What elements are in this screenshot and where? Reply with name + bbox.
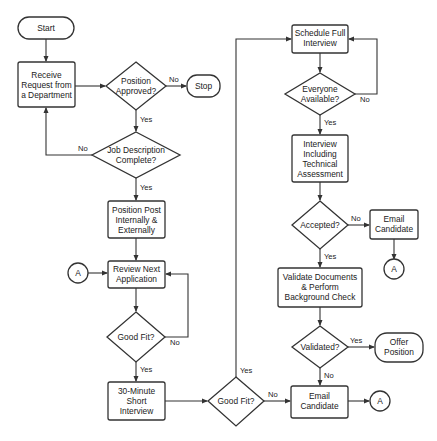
- node-validated: Validated?: [292, 326, 348, 368]
- svg-text:Approved?: Approved?: [116, 86, 157, 96]
- node-connector-a-left: A: [68, 263, 88, 283]
- svg-text:Position: Position: [384, 347, 414, 357]
- svg-text:Interview: Interview: [303, 139, 337, 149]
- svg-text:Schedule Full: Schedule Full: [295, 28, 346, 38]
- svg-text:Email: Email: [309, 391, 330, 401]
- svg-text:Including: Including: [303, 149, 337, 159]
- edge-goodfit1-review: [165, 274, 188, 337]
- node-email-candidate-1: Email Candidate: [370, 210, 418, 239]
- svg-text:Good Fit?: Good Fit?: [118, 332, 155, 342]
- svg-text:Background Check: Background Check: [285, 292, 357, 302]
- node-position-post: Position Post Internally & Externally: [108, 201, 165, 238]
- node-connector-a-right: A: [384, 259, 404, 279]
- label-approved-no: No: [169, 75, 179, 84]
- svg-text:A: A: [75, 268, 81, 278]
- svg-text:Candidate: Candidate: [375, 224, 414, 234]
- node-technical-interview: Interview Including Technical Assessment: [292, 135, 348, 182]
- label-accepted-yes: Yes: [324, 252, 337, 261]
- node-schedule-interview: Schedule Full Interview: [292, 25, 348, 53]
- svg-text:Review Next: Review Next: [113, 264, 161, 274]
- svg-text:Receive: Receive: [31, 70, 62, 80]
- label-validated-no: No: [324, 371, 334, 380]
- svg-text:Interview: Interview: [303, 38, 337, 48]
- node-review-application: Review Next Application: [108, 261, 165, 288]
- node-connector-a-bottom: A: [370, 391, 390, 411]
- node-receive-request: Receive Request from a Department: [18, 62, 75, 107]
- label-jobdesc-no: No: [78, 144, 88, 153]
- node-good-fit-2: Good Fit?: [208, 377, 264, 426]
- edge-goodfit2-schedule: [236, 39, 291, 377]
- svg-text:Offer: Offer: [390, 337, 409, 347]
- node-validate-documents: Validate Documents & Perform Background …: [278, 268, 362, 307]
- node-job-description: Job Description Complete?: [92, 132, 180, 178]
- svg-text:Stop: Stop: [195, 81, 213, 91]
- label-goodfit2-no: No: [268, 390, 278, 399]
- flowchart-canvas: No Yes No Yes No Yes Yes No No Yes No Ye…: [0, 0, 437, 441]
- node-everyone-available: Everyone Available?: [285, 73, 355, 115]
- node-accepted: Accepted?: [292, 201, 348, 249]
- svg-text:Short: Short: [126, 396, 147, 406]
- label-jobdesc-yes: Yes: [140, 183, 153, 192]
- svg-text:Start: Start: [37, 23, 55, 33]
- svg-text:Position Post: Position Post: [112, 205, 162, 215]
- svg-text:Position: Position: [121, 76, 151, 86]
- label-everyone-no: No: [360, 95, 370, 104]
- svg-text:Email: Email: [384, 214, 405, 224]
- svg-text:A: A: [391, 264, 397, 274]
- svg-text:Complete?: Complete?: [116, 155, 157, 165]
- label-validated-yes: Yes: [350, 336, 363, 345]
- label-approved-yes: Yes: [140, 115, 153, 124]
- node-offer-position: Offer Position: [375, 333, 423, 362]
- node-good-fit-1: Good Fit?: [107, 312, 165, 362]
- svg-text:Technical: Technical: [303, 159, 338, 169]
- svg-text:Accepted?: Accepted?: [300, 220, 340, 230]
- svg-text:Externally: Externally: [118, 225, 156, 235]
- svg-text:Candidate: Candidate: [300, 401, 339, 411]
- edge-everyone-schedule: [349, 39, 377, 94]
- svg-text:30-Minute: 30-Minute: [118, 386, 156, 396]
- svg-text:Request from: Request from: [21, 80, 71, 90]
- flowchart-svg: No Yes No Yes No Yes Yes No No Yes No Ye…: [0, 0, 437, 441]
- svg-text:Internally &: Internally &: [116, 215, 158, 225]
- node-position-approved: Position Approved?: [106, 62, 166, 110]
- svg-text:Application: Application: [116, 274, 157, 284]
- node-stop: Stop: [187, 75, 220, 97]
- node-email-candidate-2: Email Candidate: [291, 386, 348, 418]
- svg-text:Validated?: Validated?: [301, 342, 340, 352]
- label-goodfit1-yes: Yes: [140, 365, 153, 374]
- svg-text:a Department: a Department: [21, 90, 72, 100]
- label-goodfit1-no: No: [170, 338, 180, 347]
- svg-text:Interview: Interview: [120, 406, 154, 416]
- label-goodfit2-yes: Yes: [240, 366, 253, 375]
- svg-text:Available?: Available?: [301, 94, 340, 104]
- svg-text:Good Fit?: Good Fit?: [218, 396, 255, 406]
- svg-text:Job Description: Job Description: [107, 145, 165, 155]
- svg-text:& Perform: & Perform: [301, 282, 339, 292]
- label-everyone-yes: Yes: [324, 118, 337, 127]
- node-start: Start: [18, 17, 74, 39]
- svg-text:Everyone: Everyone: [302, 84, 338, 94]
- svg-text:Validate Documents: Validate Documents: [283, 272, 357, 282]
- svg-text:A: A: [377, 396, 383, 406]
- label-accepted-no: No: [351, 214, 361, 223]
- svg-text:Assessment: Assessment: [297, 169, 343, 179]
- node-short-interview: 30-Minute Short Interview: [108, 382, 165, 420]
